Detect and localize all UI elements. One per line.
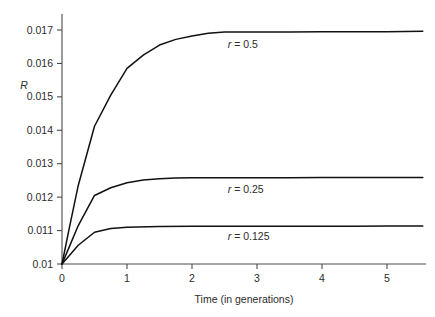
y-tick-label: 0.016: [27, 57, 53, 69]
line-chart: 0.010.0110.0120.0130.0140.0150.0160.017 …: [0, 0, 435, 317]
y-axis-ticks: 0.010.0110.0120.0130.0140.0150.0160.017: [27, 24, 62, 270]
x-tick-label: 1: [124, 272, 130, 284]
y-axis-title: R: [20, 79, 28, 91]
y-tick-label: 0.011: [28, 224, 54, 236]
x-tick-label: 5: [384, 272, 390, 284]
series-label-value: = 0.125: [231, 230, 269, 242]
y-tick-label: 0.017: [27, 24, 53, 36]
y-tick-label: 0.015: [27, 90, 53, 102]
chart-figure: 0.010.0110.0120.0130.0140.0150.0160.017 …: [0, 0, 435, 317]
x-axis-title: Time (in generations): [195, 293, 294, 305]
series-label-value: = 0.5: [231, 38, 258, 50]
y-tick-label: 0.012: [27, 191, 53, 203]
y-tick-label: 0.013: [27, 157, 53, 169]
x-tick-label: 4: [319, 272, 325, 284]
y-tick-label: 0.01: [33, 258, 54, 270]
x-axis-ticks: 012345: [59, 264, 390, 284]
y-tick-label: 0.014: [27, 124, 53, 136]
series-label: r = 0.5: [228, 38, 258, 50]
x-tick-label: 0: [59, 272, 65, 284]
x-tick-label: 3: [254, 272, 260, 284]
series-inline-labels: r = 0.5r = 0.25r = 0.125: [228, 38, 270, 242]
series-label-value: = 0.25: [231, 183, 264, 195]
series-label: r = 0.25: [228, 183, 264, 195]
x-tick-label: 2: [189, 272, 195, 284]
series-label: r = 0.125: [228, 230, 270, 242]
